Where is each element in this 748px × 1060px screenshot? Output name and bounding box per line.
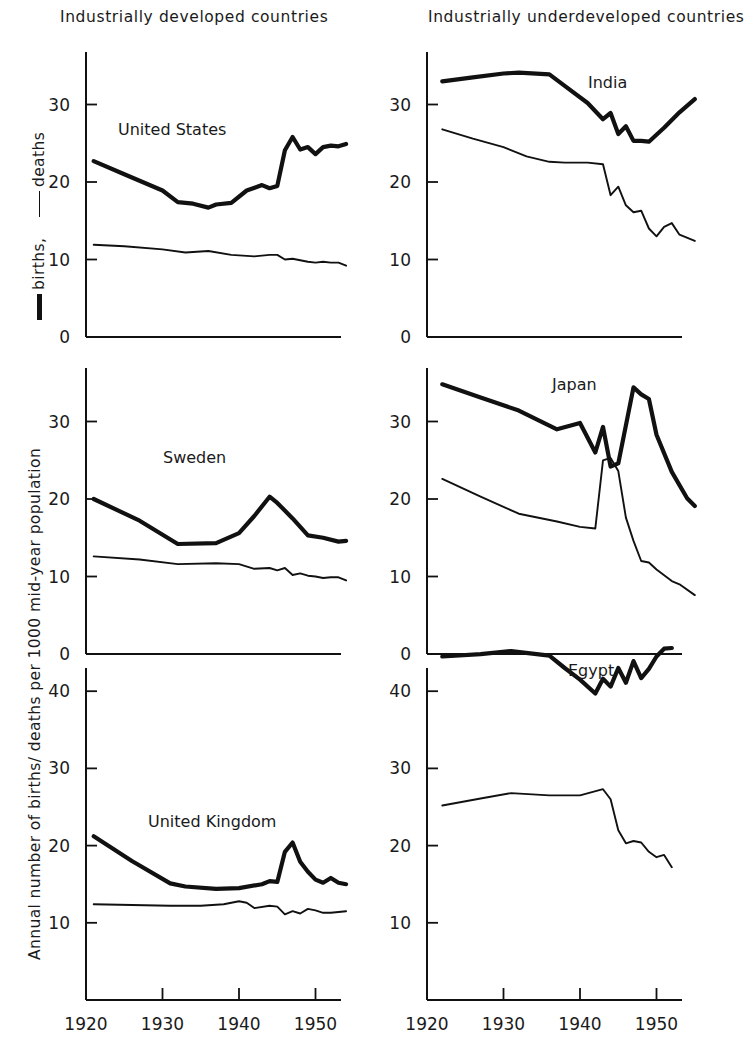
y-tick-label: 20 bbox=[389, 836, 411, 856]
y-tick-label: 30 bbox=[389, 412, 411, 432]
y-tick-label: 30 bbox=[389, 95, 411, 115]
panel-label: Sweden bbox=[163, 448, 226, 467]
panel-label: Egypt bbox=[568, 661, 614, 680]
panel-egypt: 102030401920193019401950Egypt bbox=[389, 648, 682, 1034]
y-tick-label: 30 bbox=[389, 758, 411, 778]
series-births bbox=[94, 836, 346, 889]
y-tick-label: 30 bbox=[48, 95, 70, 115]
y-tick-label: 10 bbox=[389, 567, 411, 587]
panel-united-kingdom: 102030401920193019401950United Kingdom bbox=[48, 668, 346, 1034]
panel-sweden: 0102030Sweden bbox=[48, 368, 346, 664]
y-tick-label: 0 bbox=[400, 327, 411, 347]
y-tick-label: 20 bbox=[389, 489, 411, 509]
panel-india: 0102030India bbox=[389, 52, 694, 347]
x-tick-label: 1930 bbox=[141, 1014, 184, 1034]
series-deaths bbox=[442, 129, 695, 241]
x-tick-label: 1920 bbox=[64, 1014, 107, 1034]
y-tick-label: 10 bbox=[48, 250, 70, 270]
figure-root: Industrially developed countries Industr… bbox=[0, 0, 748, 1060]
panel-united-states: 0102030United States bbox=[48, 52, 346, 347]
series-births bbox=[94, 137, 346, 208]
x-tick-label: 1940 bbox=[217, 1014, 260, 1034]
x-tick-label: 1930 bbox=[482, 1014, 525, 1034]
y-tick-label: 10 bbox=[389, 250, 411, 270]
series-births bbox=[442, 73, 695, 142]
x-tick-label: 1950 bbox=[635, 1014, 678, 1034]
y-tick-label: 10 bbox=[389, 913, 411, 933]
plot-canvas: 0102030United States0102030India0102030S… bbox=[0, 0, 748, 1060]
series-deaths bbox=[442, 789, 672, 867]
y-tick-label: 30 bbox=[48, 758, 70, 778]
series-deaths bbox=[94, 245, 346, 266]
y-tick-label: 10 bbox=[48, 913, 70, 933]
y-tick-label: 40 bbox=[48, 681, 70, 701]
series-births bbox=[94, 497, 346, 544]
y-tick-label: 40 bbox=[389, 681, 411, 701]
y-tick-label: 30 bbox=[48, 412, 70, 432]
y-tick-label: 20 bbox=[389, 172, 411, 192]
y-tick-label: 0 bbox=[59, 644, 70, 664]
panel-label: United Kingdom bbox=[148, 812, 276, 831]
series-deaths bbox=[94, 556, 346, 580]
y-tick-label: 20 bbox=[48, 489, 70, 509]
y-tick-label: 20 bbox=[48, 836, 70, 856]
x-tick-label: 1920 bbox=[405, 1014, 448, 1034]
y-tick-label: 0 bbox=[59, 327, 70, 347]
panel-label: India bbox=[588, 73, 627, 92]
panel-label: Japan bbox=[551, 375, 597, 394]
series-births bbox=[442, 384, 695, 506]
y-tick-label: 10 bbox=[48, 567, 70, 587]
x-tick-label: 1950 bbox=[294, 1014, 337, 1034]
series-deaths bbox=[442, 458, 695, 595]
y-tick-label: 0 bbox=[400, 644, 411, 664]
series-deaths bbox=[94, 901, 346, 914]
panel-label: United States bbox=[118, 120, 226, 139]
x-tick-label: 1940 bbox=[558, 1014, 601, 1034]
y-tick-label: 20 bbox=[48, 172, 70, 192]
panel-japan: 0102030Japan bbox=[389, 368, 694, 664]
